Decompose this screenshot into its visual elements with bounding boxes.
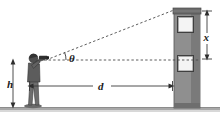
person-height-label: h xyxy=(7,78,13,90)
elevation-angle-diagram: θ h xyxy=(0,0,220,120)
person-with-surveying-instrument xyxy=(24,54,49,108)
telescope-icon xyxy=(39,56,49,59)
diagram-canvas: θ h xyxy=(0,0,220,120)
person-height-dimension: h xyxy=(7,59,15,109)
building xyxy=(173,8,201,108)
distance-label: d xyxy=(98,80,104,92)
building-window-lower xyxy=(177,55,194,72)
building-roof-cap xyxy=(173,8,201,14)
angle-label: θ xyxy=(69,52,75,64)
building-window-upper xyxy=(177,16,194,33)
building-height-label: x xyxy=(203,31,210,43)
distance-dimension: d xyxy=(28,80,175,92)
angle-arc xyxy=(65,52,66,60)
building-height-dimension: x xyxy=(202,10,212,61)
line-of-sight xyxy=(46,10,174,60)
